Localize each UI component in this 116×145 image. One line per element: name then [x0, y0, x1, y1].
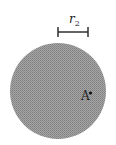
diagram-canvas: r2 A [0, 0, 116, 145]
point-a-dot [89, 91, 92, 94]
point-a-label: A [80, 89, 90, 103]
scale-bar: r2 [58, 12, 88, 37]
shaded-circle [10, 43, 106, 139]
scale-bar-label: r2 [69, 12, 80, 28]
